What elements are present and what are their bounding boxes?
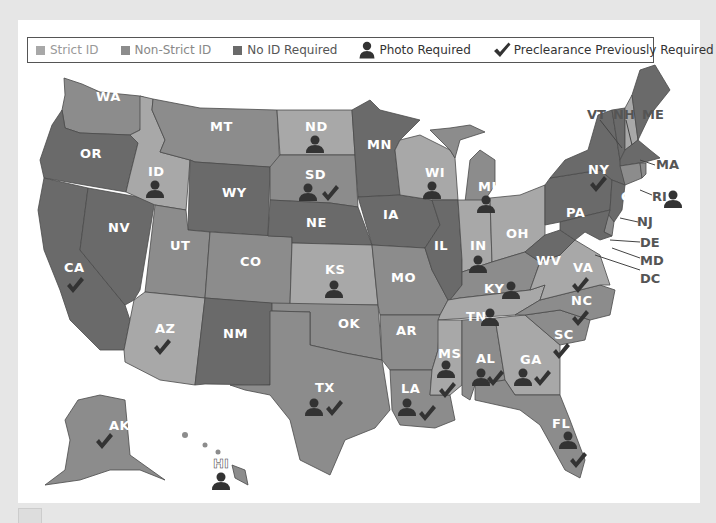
svg-text:SC: SC: [554, 327, 574, 342]
svg-text:NJ: NJ: [637, 214, 653, 229]
hi-island: [216, 450, 221, 455]
svg-text:NH: NH: [613, 107, 635, 122]
svg-text:AK: AK: [109, 418, 131, 433]
svg-text:MT: MT: [210, 119, 233, 134]
svg-text:NC: NC: [571, 293, 592, 308]
svg-text:WI: WI: [425, 165, 445, 180]
svg-text:ND: ND: [305, 119, 328, 134]
svg-text:UT: UT: [170, 238, 190, 253]
state-IA[interactable]: [358, 195, 440, 248]
svg-text:MN: MN: [367, 137, 392, 152]
state-AZ[interactable]: [124, 292, 205, 385]
svg-text:OR: OR: [80, 146, 102, 161]
svg-text:OK: OK: [338, 316, 361, 331]
svg-text:CO: CO: [240, 254, 262, 269]
svg-text:PA: PA: [566, 205, 585, 220]
svg-text:KS: KS: [325, 262, 345, 277]
svg-text:CA: CA: [64, 260, 85, 275]
svg-text:IA: IA: [383, 207, 399, 222]
svg-text:NE: NE: [306, 215, 327, 230]
svg-text:DC: DC: [640, 271, 660, 286]
svg-text:WY: WY: [222, 185, 247, 200]
person-icon: [212, 473, 230, 491]
svg-text:NM: NM: [223, 326, 248, 341]
svg-text:OH: OH: [506, 226, 529, 241]
svg-text:IN: IN: [470, 238, 487, 253]
svg-text:FL: FL: [552, 416, 570, 431]
svg-text:VT: VT: [587, 107, 606, 122]
svg-text:WV: WV: [536, 253, 561, 268]
svg-text:MO: MO: [391, 270, 416, 285]
svg-text:ID: ID: [148, 164, 165, 179]
hi-island: [182, 432, 188, 438]
svg-text:AZ: AZ: [155, 321, 176, 336]
svg-text:HI: HI: [213, 456, 229, 471]
svg-text:MA: MA: [656, 157, 679, 172]
svg-text:CT: CT: [621, 189, 640, 204]
svg-text:RI: RI: [652, 189, 667, 204]
svg-text:GA: GA: [520, 352, 542, 367]
svg-text:IL: IL: [434, 238, 448, 253]
svg-text:KY: KY: [484, 281, 505, 296]
svg-text:NY: NY: [588, 162, 609, 177]
svg-text:NV: NV: [108, 220, 130, 235]
state-WA[interactable]: [62, 78, 146, 135]
svg-text:VA: VA: [573, 260, 593, 275]
svg-text:SD: SD: [305, 167, 326, 182]
svg-text:MS: MS: [438, 346, 461, 361]
hi-island: [203, 443, 208, 448]
state-MI[interactable]: [465, 150, 495, 202]
state-ME[interactable]: [632, 65, 670, 140]
svg-text:MD: MD: [640, 253, 664, 268]
svg-text:MI: MI: [478, 179, 497, 194]
svg-text:DE: DE: [640, 235, 660, 250]
svg-text:AR: AR: [396, 323, 417, 338]
svg-text:WA: WA: [96, 89, 121, 104]
svg-text:TX: TX: [315, 380, 335, 395]
state-HI[interactable]: [232, 465, 248, 485]
svg-text:LA: LA: [401, 381, 420, 396]
svg-text:AL: AL: [476, 351, 495, 366]
corner-tab: [18, 508, 42, 523]
svg-text:ME: ME: [642, 107, 664, 122]
state-NM[interactable]: [195, 298, 272, 385]
